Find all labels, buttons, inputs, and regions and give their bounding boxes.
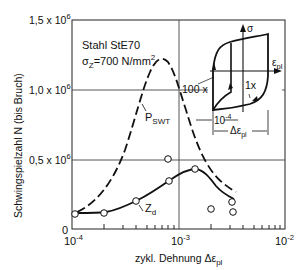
x-axis-label: zykl. Dehnung Δεpl: [135, 252, 223, 267]
data-point: [133, 198, 140, 205]
data-point: [72, 211, 79, 218]
svg-text:1,5 x 106: 1,5 x 106: [29, 12, 71, 26]
data-point: [101, 210, 108, 217]
y-tick-1.5: 1,5 x 106: [29, 12, 71, 26]
data-point: [208, 206, 215, 213]
material-label: Stahl StE70: [82, 39, 140, 51]
y-axis-label: Schwingspielzahl N (bis Bruch): [12, 73, 24, 218]
data-point: [192, 166, 199, 173]
inset-1x-label: 1x: [245, 79, 257, 91]
hysteresis-inset: σ εpl 100 x 1x 10-4 Δεpl: [182, 22, 283, 139]
inset-100x-label: 100 x: [182, 83, 208, 95]
x-tick-1e-2: 10-2: [275, 233, 294, 247]
svg-text:0,5 x 106: 0,5 x 106: [29, 152, 71, 166]
data-point: [165, 156, 172, 163]
svg-text:1,0 x 106: 1,0 x 106: [29, 82, 71, 96]
inset-sigma-label: σ: [247, 23, 254, 34]
zd-leader: [139, 205, 143, 211]
y-tick-0.5: 0,5 x 106: [29, 152, 71, 166]
fatigue-life-chart: 0 0,5 x 106 1,0 x 106 1,5 x 106 10-4 10-…: [0, 0, 307, 270]
series-zd-label: Zd: [145, 202, 156, 217]
y-tick-1.0: 1,0 x 106: [29, 82, 71, 96]
stress-label: σZ=700 N/mm2: [82, 53, 156, 70]
data-point: [230, 209, 237, 216]
data-point: [166, 178, 173, 185]
pswt-leader: [142, 104, 146, 111]
x-tick-1e-4: 10-4: [64, 233, 83, 247]
data-point: [229, 199, 236, 206]
x-tick-1e-3: 10-3: [171, 233, 190, 247]
series-pswt-label: PSWT: [145, 111, 170, 126]
x-axis-ticks: [104, 224, 280, 229]
